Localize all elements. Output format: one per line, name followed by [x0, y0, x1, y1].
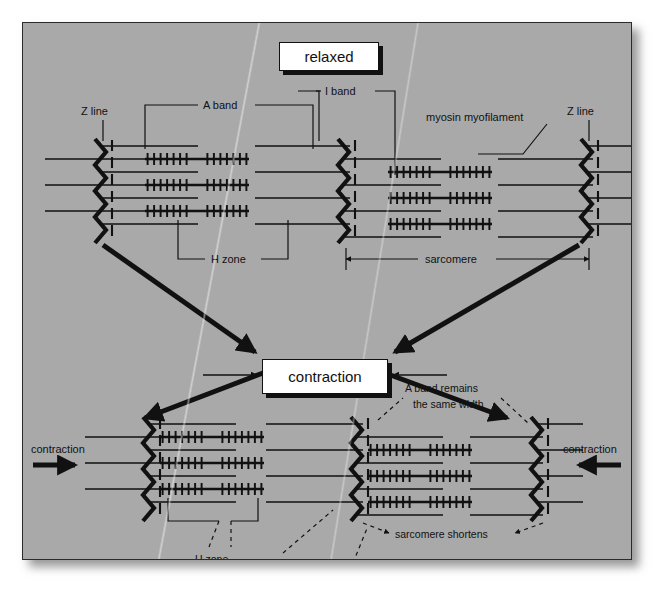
relaxed-sarcomere-group: Z line Z line A band I band H zone sarco…: [45, 85, 631, 270]
label-a-band-remains-2: the same width: [413, 398, 484, 410]
diagram-stage: Z line Z line A band I band H zone sarco…: [0, 0, 662, 598]
arrow-box-to-contracted-right: [385, 373, 507, 418]
label-i-band: I band: [325, 85, 356, 97]
contracted-sarcomere-group: contraction contraction H zone shortens: [31, 382, 621, 559]
z-line-middle-relaxed: [338, 139, 355, 243]
label-h-zone-shortens-1: H zone: [195, 553, 228, 559]
z-line-left-contracted: [143, 417, 160, 521]
arrow-box-to-contracted-left: [145, 373, 263, 418]
myosin-filaments-right-contracted: [368, 444, 472, 508]
label-h-zone: H zone: [211, 253, 246, 265]
label-z-line-left: Z line: [81, 105, 108, 117]
z-line-right-contracted: [531, 417, 548, 521]
sarcomere-artwork: Z line Z line A band I band H zone sarco…: [23, 23, 631, 559]
z-line-middle-contracted: [351, 417, 368, 521]
label-contraction-right: contraction: [563, 443, 617, 455]
label-sarcomere: sarcomere: [425, 253, 477, 265]
contraction-state-box: contraction: [262, 359, 388, 394]
relaxed-state-box: relaxed: [279, 42, 379, 71]
label-contraction-left: contraction: [31, 443, 85, 455]
a-band-bracket: [145, 105, 313, 149]
myosin-filaments-left-relaxed: [145, 153, 249, 217]
diagram-panel: Z line Z line A band I band H zone sarco…: [22, 22, 632, 560]
label-i-band-shortens: I band shortens: [271, 558, 343, 559]
z-line-left-relaxed: [95, 139, 112, 243]
myosin-filaments-right-relaxed: [388, 166, 492, 230]
label-a-band-remains-1: A band remains: [405, 382, 478, 394]
myosin-label-leader: [478, 124, 547, 154]
contraction-state-label: contraction: [288, 368, 361, 385]
label-a-band: A band: [203, 99, 237, 111]
myosin-filaments-left-contracted: [160, 431, 264, 495]
z-line-right-relaxed: [581, 139, 598, 243]
h-zone-shortens-leaders: [209, 521, 231, 547]
label-z-line-right: Z line: [567, 105, 594, 117]
label-sarcomere-shortens: sarcomere shortens: [395, 528, 488, 540]
relaxed-state-label: relaxed: [304, 48, 353, 65]
label-myosin-myofilament: myosin myofilament: [426, 111, 523, 123]
arrow-relaxed-right-to-box: [395, 245, 579, 352]
